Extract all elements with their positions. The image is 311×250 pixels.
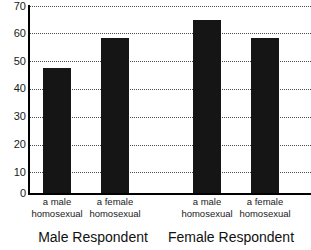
group-label-male-respondent: Male Respondent (28, 228, 158, 246)
group-labels: Male Respondent Female Respondent (0, 228, 311, 250)
bar-chart: 70 60 50 40 30 20 10 0 a male homosexual… (0, 0, 311, 250)
bar-female-respondent-a-male-homosexual (193, 20, 221, 194)
category-label-1-line-2: homosexual (85, 208, 145, 220)
category-label-2-line-1: a male (177, 196, 237, 208)
category-label-1-line-1: a female (85, 196, 145, 208)
category-label-2: a male homosexual (177, 196, 237, 219)
y-axis-line (28, 5, 30, 194)
category-label-0-line-2: homosexual (27, 208, 87, 220)
category-label-3: a female homosexual (235, 196, 295, 219)
gridline-60 (29, 33, 311, 35)
group-label-female-respondent: Female Respondent (158, 228, 304, 246)
y-tick-label-10: 10 (2, 167, 26, 178)
category-label-0: a male homosexual (27, 196, 87, 219)
bar-male-respondent-a-male-homosexual (43, 68, 71, 194)
y-tick-label-0: 0 (2, 188, 26, 199)
y-tick-label-60: 60 (2, 28, 26, 39)
y-tick-label-50: 50 (2, 56, 26, 67)
y-tick-label-20: 20 (2, 139, 26, 150)
category-label-2-line-2: homosexual (177, 208, 237, 220)
plot-area (28, 0, 311, 195)
x-axis-category-labels: a male homosexual a female homosexual a … (28, 196, 311, 224)
y-axis-tick-labels: 70 60 50 40 30 20 10 0 (0, 0, 26, 200)
category-label-0-line-1: a male (27, 196, 87, 208)
gridline-70 (29, 6, 311, 8)
y-tick-label-30: 30 (2, 111, 26, 122)
bar-female-respondent-a-female-homosexual (251, 38, 279, 194)
y-tick-label-70: 70 (2, 1, 26, 12)
y-tick-label-40: 40 (2, 83, 26, 94)
category-label-3-line-1: a female (235, 196, 295, 208)
category-label-1: a female homosexual (85, 196, 145, 219)
x-axis-line (28, 193, 311, 195)
category-label-3-line-2: homosexual (235, 208, 295, 220)
bar-male-respondent-a-female-homosexual (101, 38, 129, 194)
